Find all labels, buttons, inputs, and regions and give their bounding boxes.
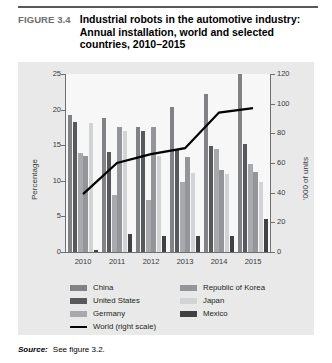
bar bbox=[230, 236, 235, 252]
bar bbox=[180, 182, 185, 252]
x-tick-label: 2010 bbox=[66, 257, 100, 266]
x-tick-label: 2012 bbox=[134, 257, 168, 266]
page-title: Industrial robots in the automotive indu… bbox=[80, 13, 318, 51]
bar bbox=[102, 118, 107, 252]
y-tick-label-left: 20 bbox=[37, 106, 61, 114]
legend-label: China bbox=[93, 283, 113, 292]
bar bbox=[214, 149, 219, 252]
bar bbox=[157, 156, 162, 252]
bar bbox=[136, 127, 141, 252]
y-tick-left bbox=[61, 110, 65, 111]
y-tick-right bbox=[271, 104, 275, 105]
legend-item[interactable]: World (right scale) bbox=[70, 320, 156, 333]
legend-label: Germany bbox=[93, 309, 125, 318]
y-tick-left bbox=[61, 145, 65, 146]
legend-color-swatch bbox=[180, 285, 197, 291]
bar bbox=[225, 174, 230, 252]
y-tick-label-right: 100 bbox=[277, 100, 301, 108]
legend-item[interactable]: China bbox=[70, 281, 156, 294]
figure-title-block: FIGURE 3.4 Industrial robots in the auto… bbox=[18, 13, 318, 51]
y-tick-right bbox=[271, 222, 275, 223]
legend-color-swatch bbox=[180, 298, 197, 304]
x-tick-label: 2011 bbox=[100, 257, 134, 266]
y-tick-label-left: 15 bbox=[37, 141, 61, 149]
bar bbox=[219, 170, 224, 252]
legend-label: Mexico bbox=[203, 309, 228, 318]
y-tick-label-right: 120 bbox=[277, 70, 301, 78]
bar bbox=[185, 157, 190, 252]
bar bbox=[196, 236, 201, 252]
y-tick-right bbox=[271, 252, 275, 253]
legend-item[interactable]: Japan bbox=[180, 294, 265, 307]
legend-label: Japan bbox=[203, 296, 224, 305]
legend-label: Republic of Korea bbox=[203, 283, 265, 292]
y-tick-left bbox=[61, 74, 65, 75]
y-tick-label-right: 0 bbox=[277, 248, 301, 256]
y-tick-right bbox=[271, 163, 275, 164]
legend-item[interactable]: United States bbox=[70, 294, 156, 307]
bar bbox=[162, 236, 167, 252]
source-note: Source:See figure 3.2. bbox=[18, 345, 105, 354]
bar bbox=[128, 234, 133, 252]
bar-series-layer bbox=[66, 74, 270, 252]
y-tick-left bbox=[61, 181, 65, 182]
x-axis bbox=[65, 252, 271, 253]
x-tick-label: 2014 bbox=[202, 257, 236, 266]
bar bbox=[264, 219, 269, 252]
y-tick-left bbox=[61, 252, 65, 253]
y-tick-label-left: 0 bbox=[37, 248, 61, 256]
y-tick-right bbox=[271, 193, 275, 194]
bar bbox=[248, 164, 253, 252]
bar bbox=[259, 182, 264, 252]
bar bbox=[238, 74, 243, 252]
y-tick-label-right: 80 bbox=[277, 129, 301, 137]
y-tick-right bbox=[271, 133, 275, 134]
y-tick-label-left: 5 bbox=[37, 212, 61, 220]
bar bbox=[89, 123, 94, 252]
bar bbox=[141, 131, 146, 252]
bar bbox=[123, 131, 128, 252]
legend-color-swatch bbox=[180, 311, 197, 317]
legend-item[interactable]: Republic of Korea bbox=[180, 281, 265, 294]
bar bbox=[117, 127, 122, 252]
x-tick-label: 2013 bbox=[168, 257, 202, 266]
bar bbox=[209, 146, 214, 252]
legend-color-swatch bbox=[70, 298, 87, 304]
legend-color-swatch bbox=[70, 285, 87, 291]
y-tick-label-right: 20 bbox=[277, 218, 301, 226]
bar bbox=[107, 152, 112, 252]
bar bbox=[204, 94, 209, 252]
y-axis-right-title: '000 of units bbox=[301, 157, 310, 200]
source-label: Source: bbox=[18, 345, 48, 354]
bar bbox=[78, 153, 83, 252]
legend-item[interactable]: Mexico bbox=[180, 307, 265, 320]
bar bbox=[151, 127, 156, 252]
legend-column-left: ChinaUnited StatesGermanyWorld (right sc… bbox=[70, 281, 156, 333]
legend-item[interactable]: Germany bbox=[70, 307, 156, 320]
legend-label: United States bbox=[93, 296, 140, 305]
bar bbox=[175, 149, 180, 252]
legend-column-right: Republic of KoreaJapanMexico bbox=[180, 281, 265, 320]
legend-color-swatch bbox=[70, 311, 87, 317]
y-tick-label-left: 10 bbox=[37, 177, 61, 185]
bar bbox=[170, 107, 175, 252]
y-tick-label-right: 60 bbox=[277, 159, 301, 167]
bar bbox=[146, 200, 151, 252]
legend-line-swatch bbox=[70, 326, 87, 328]
y-tick-label-left: 25 bbox=[37, 70, 61, 78]
legend-label: World (right scale) bbox=[93, 322, 156, 331]
bar bbox=[68, 115, 73, 252]
y-tick-right bbox=[271, 74, 275, 75]
bar bbox=[191, 173, 196, 252]
bar bbox=[83, 156, 88, 252]
bar bbox=[243, 144, 248, 252]
figure-number: FIGURE 3.4 bbox=[18, 13, 71, 25]
x-tick-label: 2015 bbox=[236, 257, 270, 266]
bar bbox=[253, 172, 258, 252]
source-text: See figure 3.2. bbox=[53, 345, 105, 354]
bar bbox=[94, 250, 99, 252]
bar bbox=[73, 122, 78, 252]
bar bbox=[112, 195, 117, 252]
y-tick-label-right: 40 bbox=[277, 189, 301, 197]
chart-panel: Percentage '000 of units 0510152025 0204… bbox=[18, 62, 314, 335]
